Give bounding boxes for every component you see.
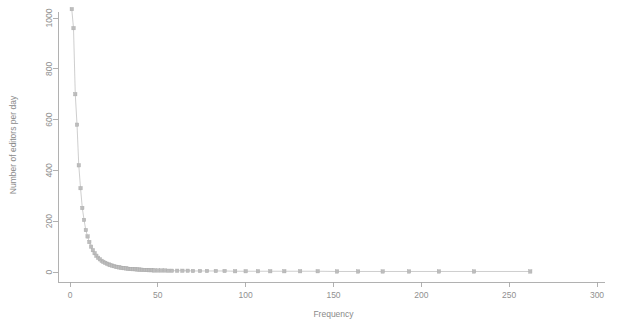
- top-clip-guard: [0, 0, 620, 4]
- data-point: [70, 7, 73, 10]
- data-point: [81, 206, 84, 209]
- x-tick-label: 200: [414, 290, 428, 300]
- data-point: [72, 26, 75, 29]
- data-point: [75, 123, 78, 126]
- data-point: [84, 228, 87, 231]
- data-point: [181, 269, 184, 272]
- data-point: [89, 245, 92, 248]
- data-point: [82, 218, 85, 221]
- x-tick-label: 150: [326, 290, 340, 300]
- data-point: [472, 270, 475, 273]
- data-point: [244, 270, 247, 273]
- y-tick-label: 1000: [44, 8, 54, 27]
- y-tick-label: 200: [44, 214, 54, 228]
- y-tick-label: 400: [44, 163, 54, 177]
- data-point: [198, 269, 201, 272]
- y-tick-label: 600: [44, 112, 54, 126]
- scatter-plot: 05010015020025030002004006008001000Frequ…: [0, 0, 620, 330]
- data-point: [163, 269, 166, 272]
- data-point: [381, 270, 384, 273]
- x-tick-label: 250: [502, 290, 516, 300]
- data-point: [437, 270, 440, 273]
- data-point: [529, 270, 532, 273]
- data-point: [160, 269, 163, 272]
- data-point: [223, 269, 226, 272]
- data-point: [316, 270, 319, 273]
- data-point: [170, 269, 173, 272]
- chart-figure: 05010015020025030002004006008001000Frequ…: [0, 0, 620, 330]
- data-point: [191, 269, 194, 272]
- data-point: [298, 270, 301, 273]
- data-point: [407, 270, 410, 273]
- data-point: [205, 269, 208, 272]
- data-point: [233, 270, 236, 273]
- y-tick-label: 0: [44, 269, 54, 274]
- data-point: [74, 93, 77, 96]
- data-point: [175, 269, 178, 272]
- data-point: [335, 270, 338, 273]
- axes-layer: [53, 12, 605, 287]
- data-point: [269, 270, 272, 273]
- axis-labels-layer: 05010015020025030002004006008001000Frequ…: [8, 8, 604, 319]
- data-point: [156, 269, 159, 272]
- data-point: [153, 269, 156, 272]
- data-point: [356, 270, 359, 273]
- data-point: [77, 164, 80, 167]
- data-point: [283, 270, 286, 273]
- data-point: [88, 240, 91, 243]
- data-line-0: [72, 9, 530, 271]
- data-point: [214, 269, 217, 272]
- x-tick-label: 50: [153, 290, 163, 300]
- data-series-layer: [70, 7, 532, 273]
- data-point: [86, 235, 89, 238]
- y-axis-title: Number of editors per day: [8, 95, 18, 194]
- data-point: [186, 269, 189, 272]
- x-axis-title: Frequency: [313, 309, 354, 319]
- x-tick-label: 0: [68, 290, 73, 300]
- data-point: [79, 186, 82, 189]
- x-tick-label: 100: [239, 290, 253, 300]
- y-tick-label: 800: [44, 61, 54, 75]
- data-point: [256, 270, 259, 273]
- x-tick-label: 300: [590, 290, 604, 300]
- data-point: [167, 269, 170, 272]
